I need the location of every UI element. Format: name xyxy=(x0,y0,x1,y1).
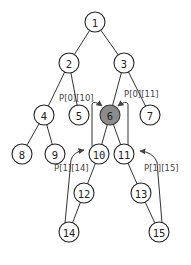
node-label: 15 xyxy=(153,227,166,239)
node-label: 2 xyxy=(66,58,72,70)
node-label: 1 xyxy=(92,17,98,29)
pointer-label-p0-11: P[0][11] xyxy=(124,89,159,99)
edge-1-3 xyxy=(101,30,118,55)
tree-node-13: 13 xyxy=(131,183,151,203)
node-label: 7 xyxy=(147,110,153,122)
node-label: 3 xyxy=(121,58,127,70)
tree-node-2: 2 xyxy=(59,53,79,73)
tree-nodes: 123456789101112131415 xyxy=(12,12,169,242)
tree-node-4: 4 xyxy=(34,105,54,125)
pointer-label-p0-10: P[0][10] xyxy=(59,93,94,103)
tree-node-9: 9 xyxy=(45,144,65,164)
node-label: 5 xyxy=(76,110,82,122)
pointer-arrow-p0-10 xyxy=(92,102,102,146)
node-label: 6 xyxy=(107,110,113,122)
edge-1-2 xyxy=(74,30,89,54)
tree-node-3: 3 xyxy=(114,53,134,73)
node-label: 12 xyxy=(78,188,91,200)
tree-node-11: 11 xyxy=(114,144,134,164)
tree-node-5: 5 xyxy=(69,105,89,125)
edge-13-15 xyxy=(145,202,155,223)
tree-node-10: 10 xyxy=(89,144,109,164)
node-label: 9 xyxy=(52,149,58,161)
tree-node-15: 15 xyxy=(149,222,169,242)
node-label: 8 xyxy=(19,149,25,161)
edge-6-11 xyxy=(113,124,120,144)
tree-node-14: 14 xyxy=(59,222,79,242)
node-label: 13 xyxy=(135,188,148,200)
node-label: 14 xyxy=(63,227,76,239)
tree-node-12: 12 xyxy=(74,183,94,203)
edge-4-8 xyxy=(27,124,39,146)
edge-11-13 xyxy=(128,163,137,184)
pointer-label-p1-15: P[1][15] xyxy=(144,163,179,173)
edge-12-14 xyxy=(73,202,81,222)
tree-node-6: 6 xyxy=(100,105,120,125)
tree-node-1: 1 xyxy=(85,12,105,32)
tree-node-7: 7 xyxy=(140,105,160,125)
node-label: 10 xyxy=(93,149,106,161)
edge-3-6 xyxy=(113,73,122,106)
node-label: 4 xyxy=(41,110,47,122)
edge-4-9 xyxy=(47,125,53,145)
pointer-arrow-p0-11 xyxy=(118,102,128,146)
tree-node-8: 8 xyxy=(12,144,32,164)
tree-diagram: P[0][10] P[0][11] P[1][14] P[1][15] 1234… xyxy=(0,0,191,265)
edge-6-10 xyxy=(102,125,108,145)
node-label: 11 xyxy=(118,149,131,161)
pointer-label-p1-14: P[1][14] xyxy=(54,163,89,173)
edge-10-12 xyxy=(88,163,96,183)
